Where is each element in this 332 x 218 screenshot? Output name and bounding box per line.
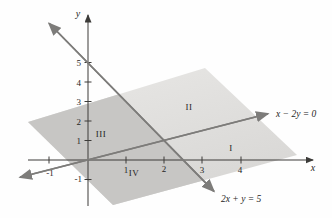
- y-tick-label-1: 1: [77, 136, 82, 146]
- figure-container: y x 5 4 3 2 1 -1 -1 1 2 3 4 I II III IV …: [0, 0, 332, 218]
- equation-label-x-minus-2y-0: x − 2y = 0: [275, 109, 317, 119]
- coordinate-plane-figure: y x 5 4 3 2 1 -1 -1 1 2 3 4 I II III IV …: [0, 0, 332, 218]
- y-axis-label: y: [75, 8, 81, 19]
- y-tick-label-neg1: -1: [75, 174, 83, 184]
- y-tick-label-4: 4: [77, 78, 82, 88]
- x-tick-label-1: 1: [124, 165, 129, 175]
- x-tick-label-4: 4: [238, 165, 243, 175]
- y-tick-label-2: 2: [77, 117, 82, 127]
- region-label-IV: IV: [129, 168, 140, 178]
- x-axis-label: x: [310, 162, 316, 173]
- y-tick-label-3: 3: [77, 97, 82, 107]
- x-tick-label-3: 3: [200, 165, 205, 175]
- x-tick-label-2: 2: [162, 164, 167, 174]
- region-label-II: II: [186, 102, 193, 112]
- region-label-I: I: [229, 143, 233, 153]
- x-tick-label-neg1: -1: [46, 168, 54, 178]
- y-tick-label-5: 5: [77, 58, 82, 68]
- region-label-III: III: [96, 129, 107, 139]
- equation-label-2x-plus-y-5: 2x + y = 5: [221, 194, 262, 204]
